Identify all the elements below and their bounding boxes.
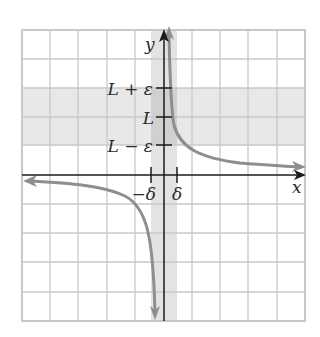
tick-label-l-plus-epsilon: L + ε: [107, 79, 153, 99]
tick-label-minus-delta: −δ: [132, 184, 156, 204]
epsilon-delta-diagram: y x L + ε L L − ε −δ δ: [0, 0, 320, 337]
tick-label-l: L: [142, 108, 154, 128]
tick-label-l-minus-epsilon: L − ε: [107, 136, 153, 156]
y-axis-label: y: [144, 34, 155, 54]
x-axis-label: x: [292, 177, 302, 197]
tick-label-delta: δ: [172, 184, 182, 204]
